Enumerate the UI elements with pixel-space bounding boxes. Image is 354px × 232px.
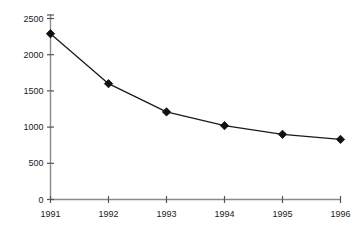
data-point-marker <box>220 121 228 129</box>
y-axis-tick-label: 500 <box>28 159 43 168</box>
series-line <box>51 34 341 140</box>
data-point-marker <box>162 108 170 116</box>
data-line <box>51 34 341 140</box>
data-markers-group <box>46 30 344 144</box>
y-axis-tick-label: 2500 <box>23 14 43 23</box>
y-axis-tick-label: 1500 <box>23 86 43 95</box>
y-axis-tick-label: 0 <box>38 195 43 204</box>
x-axis-tick-label: 1992 <box>98 210 118 219</box>
axes-group <box>51 15 341 200</box>
tick-marks-group <box>47 15 341 203</box>
chart-container: 05001000150020002500 1991199219931994199… <box>0 0 354 232</box>
data-point-marker <box>336 135 344 143</box>
x-axis-tick-label: 1996 <box>330 210 350 219</box>
chart-plot-area <box>0 0 354 232</box>
x-axis-tick-label: 1991 <box>40 210 60 219</box>
x-axis-tick-label: 1993 <box>156 210 176 219</box>
x-axis-tick-label: 1995 <box>272 210 292 219</box>
y-axis-tick-label: 1000 <box>23 123 43 132</box>
x-axis-tick-label: 1994 <box>214 210 234 219</box>
data-point-marker <box>278 130 286 138</box>
y-axis-tick-label: 2000 <box>23 50 43 59</box>
